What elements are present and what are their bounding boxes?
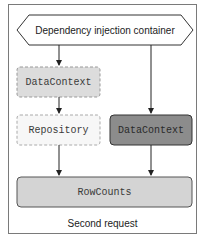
caption: Second request (8, 214, 197, 232)
datacontext-dark-label: DataContext (110, 115, 192, 145)
rowcounts-label: RowCounts (17, 177, 192, 207)
repository-label: Repository (17, 115, 100, 145)
container-label: Dependency injection container (29, 15, 181, 45)
datacontext-scoped-label: DataContext (17, 67, 100, 97)
